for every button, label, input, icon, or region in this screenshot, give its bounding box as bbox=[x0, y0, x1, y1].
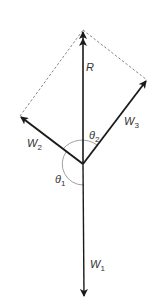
label-w3-sub: 3 bbox=[134, 121, 139, 130]
force-vector-diagram: R W2 W3 θ2 θ1 W1 bbox=[0, 0, 154, 303]
dashed-line-w2-to-r bbox=[20, 30, 83, 116]
label-w3: W3 bbox=[124, 115, 139, 130]
label-theta1-sub: 1 bbox=[61, 179, 66, 188]
angle-arc-theta2 bbox=[63, 140, 97, 149]
label-r: R bbox=[86, 61, 94, 73]
label-w2: W2 bbox=[27, 137, 42, 152]
label-theta2-sub: 2 bbox=[95, 135, 100, 144]
label-w2-sub: 2 bbox=[37, 143, 42, 152]
label-theta1: θ1 bbox=[55, 173, 66, 188]
vector-w1-arrow bbox=[83, 164, 84, 296]
label-w1-sub: 1 bbox=[100, 264, 105, 273]
label-w1: W1 bbox=[90, 258, 105, 273]
